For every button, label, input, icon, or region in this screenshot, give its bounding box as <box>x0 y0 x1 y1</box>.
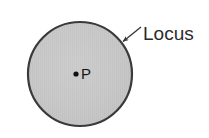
point-p-label: P <box>81 65 91 82</box>
diagram-canvas: P Locus <box>0 0 209 138</box>
point-p-dot <box>73 71 78 76</box>
locus-leader-arrow-icon <box>123 27 141 42</box>
locus-diagram: P Locus <box>0 0 209 138</box>
locus-label: Locus <box>143 23 194 44</box>
